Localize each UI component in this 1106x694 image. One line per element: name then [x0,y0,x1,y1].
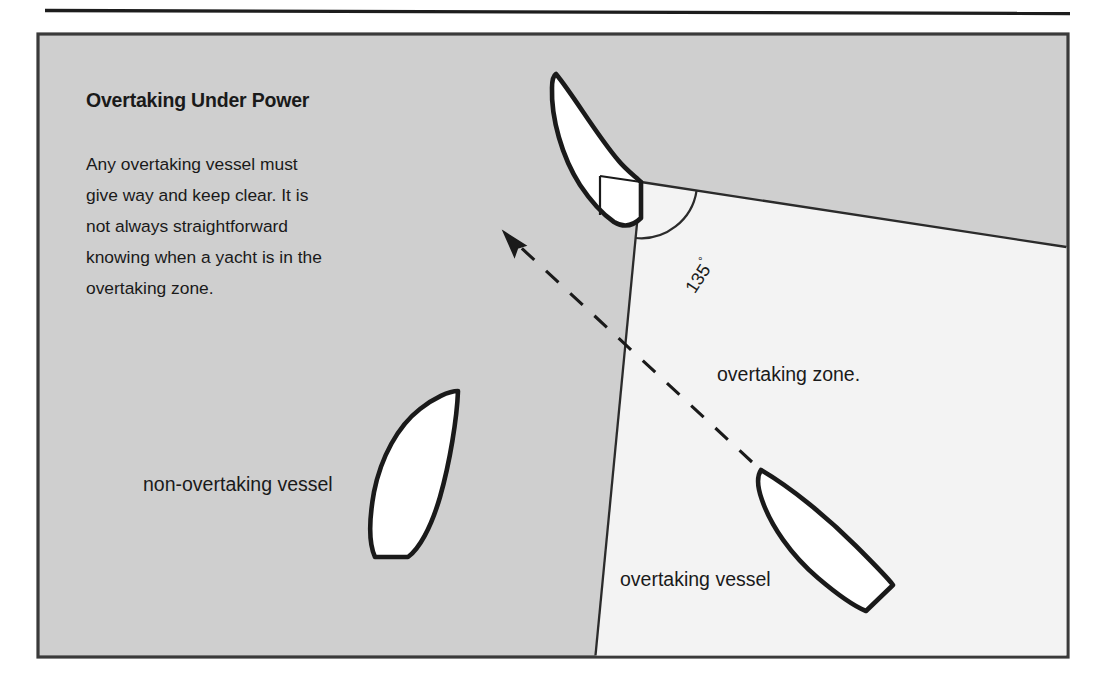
overtaking-vessel-label: overtaking vessel [620,568,771,590]
callout-title: Overtaking Under Power [86,89,310,111]
callout-body-line-3: not always straightforward [86,216,288,236]
callout-body-line-2: give way and keep clear. It is [86,185,309,205]
callout-body-line-4: knowing when a yacht is in the [86,247,322,267]
non-overtaking-vessel-label: non-overtaking vessel [143,473,333,495]
overtaking-diagram: Overtaking Under Power Any overtaking ve… [0,0,1106,694]
top-divider-rule [45,11,1070,14]
overtaking-zone-label: overtaking zone. [717,363,860,385]
callout-body-line-1: Any overtaking vessel must [86,154,298,174]
callout-body-line-5: overtaking zone. [86,278,214,298]
figure-page: Overtaking Under Power Any overtaking ve… [0,0,1106,694]
